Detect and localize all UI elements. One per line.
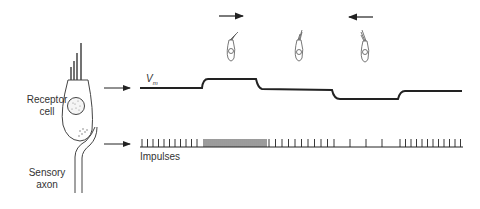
axon-label-line2: axon (22, 179, 72, 191)
receptor-label-line1: Receptor (22, 94, 72, 106)
membrane-potential-trace (140, 79, 462, 99)
receptor-label-line2: cell (22, 106, 72, 118)
sensory-axon-label: Sensory axon (22, 167, 72, 191)
sensory-axon (75, 127, 97, 193)
mini-cell-rest (295, 30, 303, 61)
impulses-label: Impulses (140, 151, 180, 163)
receptor-cell (62, 43, 92, 141)
vm-label: Vm (146, 73, 158, 89)
mini-cell-deflected-right (227, 32, 238, 61)
diagram-canvas (0, 0, 480, 209)
axon-label-line1: Sensory (22, 167, 72, 179)
mini-cell-deflected-left (361, 30, 369, 62)
receptor-cell-label: Receptor cell (22, 94, 72, 118)
impulse-spike-train (142, 139, 461, 147)
synaptic-vesicles (78, 128, 87, 136)
